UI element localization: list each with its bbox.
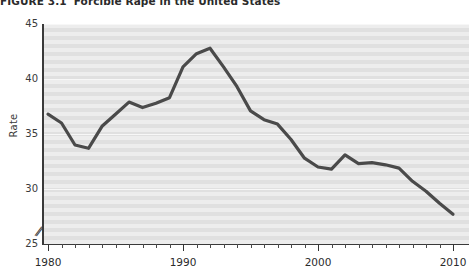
x-tick-minor (224, 244, 225, 248)
x-tick-minor (89, 244, 90, 248)
x-tick-minor (116, 244, 117, 248)
x-tick-label: 2010 (430, 256, 469, 268)
y-tick-label: 45 (10, 19, 38, 29)
x-tick-minor (399, 244, 400, 248)
y-axis-title: Rate (8, 96, 19, 156)
y-axis-line (42, 24, 44, 244)
x-tick-minor (156, 244, 157, 248)
x-tick-minor (62, 244, 63, 248)
x-tick-minor (359, 244, 360, 248)
x-tick-minor (291, 244, 292, 248)
x-axis-ticks (0, 244, 469, 254)
x-tick-label: 1980 (25, 256, 71, 268)
y-tick-label: 30 (10, 184, 38, 194)
x-tick-minor (345, 244, 346, 248)
x-tick-minor (143, 244, 144, 248)
x-tick-minor (75, 244, 76, 248)
plot-area (42, 24, 469, 244)
x-tick-minor (386, 244, 387, 248)
x-axis-tick-labels: 1980199020002010 (0, 256, 469, 270)
x-tick-major (453, 244, 454, 251)
x-tick-label: 1990 (160, 256, 206, 268)
x-tick-minor (278, 244, 279, 248)
x-tick-minor (372, 244, 373, 248)
x-tick-minor (264, 244, 265, 248)
x-tick-minor (413, 244, 414, 248)
x-tick-major (48, 244, 49, 251)
x-tick-major (318, 244, 319, 251)
x-tick-minor (237, 244, 238, 248)
y-tick-label: 40 (10, 74, 38, 84)
x-tick-minor (251, 244, 252, 248)
x-tick-label: 2000 (295, 256, 341, 268)
x-tick-minor (305, 244, 306, 248)
x-tick-minor (426, 244, 427, 248)
x-tick-minor (197, 244, 198, 248)
x-tick-minor (210, 244, 211, 248)
x-tick-minor (332, 244, 333, 248)
line-chart: // 2530354045 Rate 1980199020002010 (0, 0, 469, 280)
x-tick-minor (129, 244, 130, 248)
x-tick-minor (170, 244, 171, 248)
x-tick-minor (102, 244, 103, 248)
data-series-forcible-rape-rate (42, 24, 469, 244)
x-tick-major (183, 244, 184, 251)
x-tick-minor (440, 244, 441, 248)
